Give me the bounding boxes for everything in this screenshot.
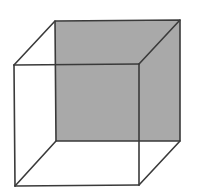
cube-diagram [0,0,218,196]
edge-front-top [14,64,139,65]
edge-front-left [14,65,15,186]
edge-front-bottom [15,185,139,186]
edge-connector-top-left [14,21,55,65]
edge-connector-bottom-left [15,141,56,186]
back-face-shaded [55,20,180,141]
edge-connector-bottom-right [139,141,180,185]
